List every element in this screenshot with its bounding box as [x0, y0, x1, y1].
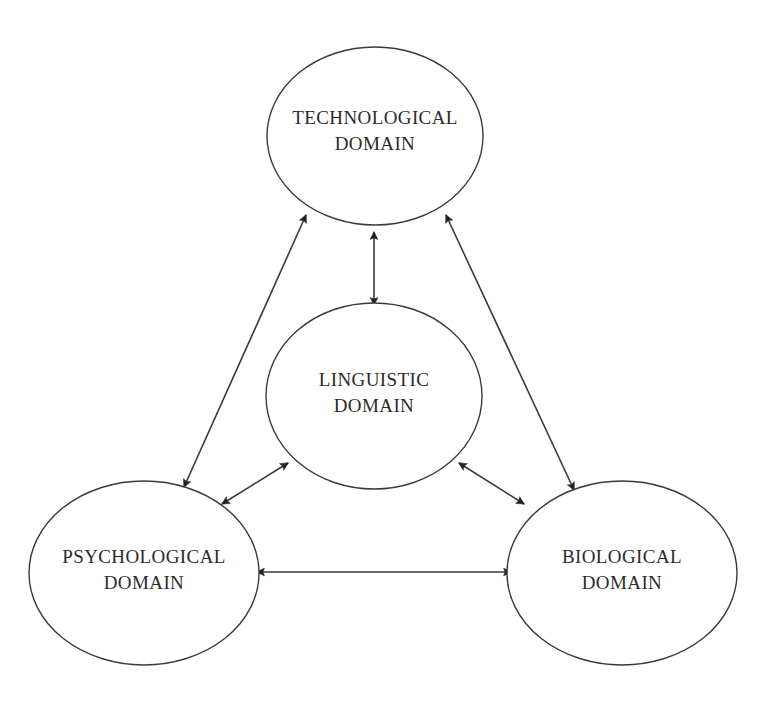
linguistic-domain-label-line1: LINGUISTIC	[319, 369, 430, 390]
edge-linguistic-psychological	[222, 463, 288, 504]
linguistic-domain-label-line2: DOMAIN	[334, 395, 415, 416]
edge-linguistic-biological	[459, 463, 524, 504]
technological-domain-label-line2: DOMAIN	[335, 133, 416, 154]
biological-domain-label-line2: DOMAIN	[582, 572, 663, 593]
psychological-domain-label-line1: PSYCHOLOGICAL	[62, 546, 226, 567]
domain-relationship-diagram: TECHNOLOGICAL DOMAIN LINGUISTIC DOMAIN P…	[0, 0, 767, 705]
node-biological[interactable]: BIOLOGICAL DOMAIN	[507, 481, 737, 665]
technological-domain-label-line1: TECHNOLOGICAL	[292, 107, 458, 128]
node-technological[interactable]: TECHNOLOGICAL DOMAIN	[267, 47, 483, 225]
node-psychological[interactable]: PSYCHOLOGICAL DOMAIN	[29, 481, 259, 665]
node-linguistic[interactable]: LINGUISTIC DOMAIN	[266, 303, 482, 489]
diagram-canvas: TECHNOLOGICAL DOMAIN LINGUISTIC DOMAIN P…	[0, 0, 767, 705]
psychological-domain-label-line2: DOMAIN	[104, 572, 185, 593]
biological-domain-label-line1: BIOLOGICAL	[562, 546, 682, 567]
